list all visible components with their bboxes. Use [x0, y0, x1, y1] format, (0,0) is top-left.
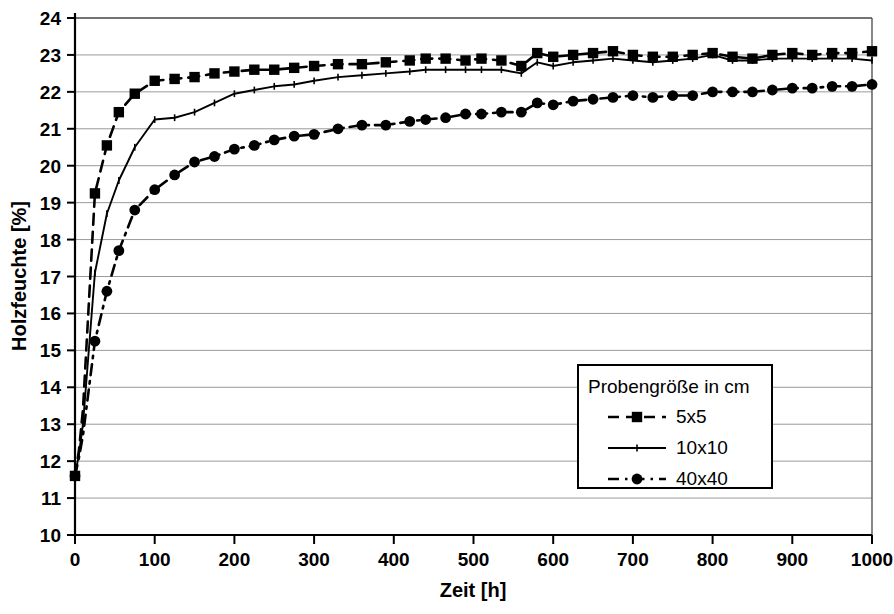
data-point-5x5-15: [309, 61, 319, 71]
data-point-40x40-7: [149, 184, 160, 195]
data-point-40x40-21: [440, 112, 451, 123]
data-point-5x5-16: [333, 59, 343, 69]
data-point-5x5-25: [516, 61, 526, 71]
data-point-5x5-6: [130, 89, 140, 99]
data-point-5x5-28: [568, 50, 578, 60]
x-tick-label-700: 700: [617, 549, 649, 570]
legend-marker-5x5: [632, 412, 642, 422]
data-point-5x5-21: [440, 53, 450, 63]
data-point-5x5-29: [588, 48, 598, 58]
x-tick-label-1000: 1000: [851, 549, 893, 570]
data-point-40x40-3: [90, 336, 101, 347]
x-tick-label-900: 900: [776, 549, 808, 570]
data-point-5x5-4: [102, 140, 112, 150]
data-point-40x40-24: [496, 107, 507, 118]
x-tick-label-0: 0: [70, 549, 81, 570]
data-point-40x40-40: [807, 83, 818, 94]
data-point-40x40-31: [628, 90, 639, 101]
x-tick-label-200: 200: [219, 549, 251, 570]
data-point-40x40-22: [460, 109, 471, 120]
data-point-40x40-25: [516, 107, 527, 118]
data-point-40x40-16: [333, 123, 344, 134]
data-point-40x40-27: [548, 99, 559, 110]
x-axis-title: Zeit [h]: [440, 579, 507, 601]
data-point-40x40-11: [229, 144, 240, 155]
data-point-5x5-7: [150, 76, 160, 86]
data-point-5x5-18: [381, 57, 391, 67]
data-point-40x40-36: [727, 86, 738, 97]
data-point-5x5-26: [532, 48, 542, 58]
legend-label-40x40: 40x40: [676, 468, 728, 489]
y-tick-label-24: 24: [40, 8, 62, 29]
data-point-40x40-38: [767, 85, 778, 96]
data-point-5x5-17: [357, 59, 367, 69]
y-tick-label-17: 17: [40, 267, 61, 288]
data-point-40x40-23: [476, 109, 487, 120]
data-point-5x5-22: [460, 55, 470, 65]
data-point-40x40-28: [568, 96, 579, 107]
y-axis-title: Holzfeuchte [%]: [8, 201, 30, 351]
chart-legend[interactable]: Probengröße in cm 5x510x1040x40: [578, 365, 772, 489]
data-point-40x40-19: [404, 116, 415, 127]
data-point-5x5-19: [405, 55, 415, 65]
data-point-40x40-37: [747, 86, 758, 97]
data-point-40x40-9: [189, 157, 200, 168]
data-point-5x5-23: [476, 53, 486, 63]
y-tick-label-18: 18: [40, 230, 61, 251]
x-tick-label-100: 100: [139, 549, 171, 570]
data-point-40x40-5: [113, 245, 124, 256]
y-axis-tick-labels: 101112131415161718192021222324: [40, 8, 62, 546]
y-tick-label-14: 14: [40, 377, 62, 398]
data-point-40x40-33: [667, 90, 678, 101]
data-point-40x40-13: [269, 134, 280, 145]
x-tick-label-600: 600: [537, 549, 569, 570]
data-point-5x5-5: [114, 107, 124, 117]
data-point-40x40-12: [249, 140, 260, 151]
data-point-5x5-9: [189, 72, 199, 82]
data-point-5x5-30: [608, 46, 618, 56]
y-tick-label-10: 10: [40, 525, 61, 546]
data-point-40x40-6: [129, 205, 140, 216]
data-point-5x5-8: [169, 74, 179, 84]
y-tick-label-19: 19: [40, 193, 61, 214]
x-tick-label-500: 500: [458, 549, 490, 570]
data-point-40x40-26: [532, 98, 543, 109]
data-point-40x40-15: [309, 129, 320, 140]
y-tick-label-13: 13: [40, 414, 61, 435]
data-point-40x40-34: [687, 90, 698, 101]
data-point-40x40-42: [847, 81, 858, 92]
data-point-5x5-3: [90, 188, 100, 198]
y-tick-label-22: 22: [40, 82, 61, 103]
x-tick-label-400: 400: [378, 549, 410, 570]
y-tick-label-21: 21: [40, 119, 62, 140]
y-tick-label-16: 16: [40, 303, 61, 324]
y-tick-label-23: 23: [40, 45, 61, 66]
y-tick-label-12: 12: [40, 451, 61, 472]
data-point-5x5-13: [269, 65, 279, 75]
data-point-40x40-10: [209, 151, 220, 162]
data-point-5x5-12: [249, 65, 259, 75]
data-point-5x5-43: [867, 46, 877, 56]
data-point-40x40-18: [380, 120, 391, 131]
data-point-40x40-4: [101, 286, 112, 297]
data-point-40x40-41: [827, 81, 838, 92]
data-point-40x40-30: [608, 92, 619, 103]
x-tick-label-800: 800: [697, 549, 729, 570]
data-point-40x40-8: [169, 170, 180, 181]
y-tick-label-15: 15: [40, 340, 62, 361]
data-point-40x40-14: [289, 131, 300, 142]
data-point-40x40-43: [867, 79, 878, 90]
data-point-40x40-20: [420, 114, 431, 125]
y-tick-label-20: 20: [40, 156, 61, 177]
data-point-5x5-24: [496, 55, 506, 65]
x-tick-label-300: 300: [298, 549, 330, 570]
data-point-40x40-35: [707, 86, 718, 97]
data-point-5x5-14: [289, 63, 299, 73]
legend-title: Probengröße in cm: [588, 376, 750, 397]
data-point-5x5-10: [209, 68, 219, 78]
data-point-40x40-17: [357, 120, 368, 131]
y-tick-label-11: 11: [41, 488, 62, 509]
chart-container: 101112131415161718192021222324 010020030…: [0, 0, 894, 614]
data-point-40x40-0: [70, 471, 81, 482]
legend-label-5x5: 5x5: [676, 406, 707, 427]
